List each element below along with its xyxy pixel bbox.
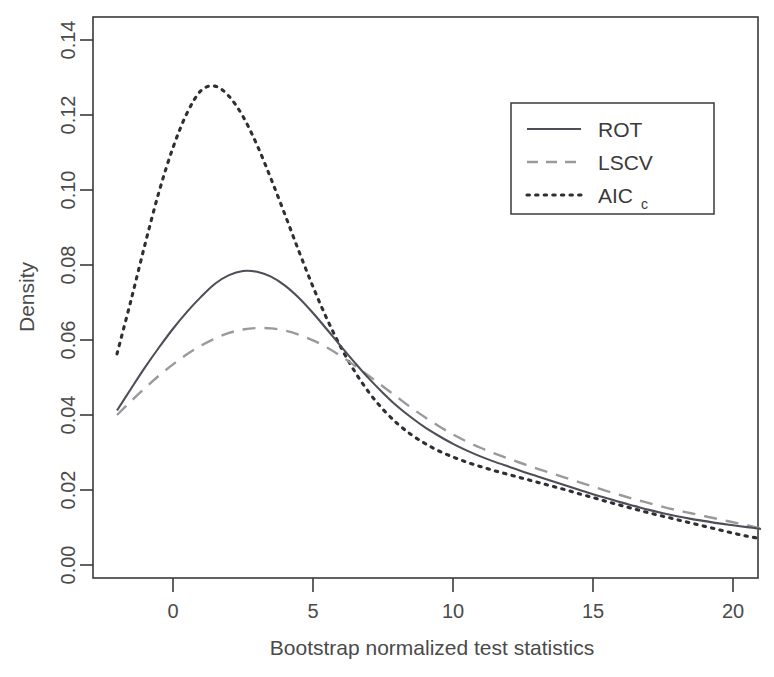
density-plot-figure: 0.000.020.040.060.080.100.120.14 0510152… (0, 0, 774, 677)
x-tick-label: 20 (722, 600, 744, 622)
y-tick-label: 0.08 (57, 246, 79, 285)
x-tick-label: 5 (307, 600, 318, 622)
y-axis-ticks: 0.000.020.040.060.080.100.120.14 (57, 21, 93, 585)
series-line-lscv (117, 328, 761, 529)
legend-label-aicc-subscript: c (641, 196, 648, 212)
series-line-rot (117, 271, 761, 529)
legend-label-aicc: AIC (598, 184, 633, 207)
plot-svg: 0.000.020.040.060.080.100.120.14 0510152… (0, 0, 774, 677)
y-tick-label: 0.00 (57, 546, 79, 585)
x-tick-label: 0 (167, 600, 178, 622)
x-tick-label: 15 (582, 600, 604, 622)
y-tick-label: 0.12 (57, 96, 79, 135)
x-tick-label: 10 (442, 600, 464, 622)
y-tick-label: 0.14 (57, 21, 79, 60)
y-tick-label: 0.06 (57, 321, 79, 360)
x-axis-ticks: 05101520 (167, 578, 744, 622)
y-tick-label: 0.04 (57, 396, 79, 435)
legend-label-rot: ROT (598, 118, 643, 141)
y-tick-label: 0.02 (57, 471, 79, 510)
legend-label-lscv: LSCV (598, 151, 653, 174)
y-tick-label: 0.10 (57, 171, 79, 210)
y-axis-title: Density (15, 261, 38, 332)
plot-frame (93, 17, 758, 578)
x-axis-title: Bootstrap normalized test statistics (270, 636, 594, 659)
legend: ROT LSCV AIC c (511, 103, 714, 214)
